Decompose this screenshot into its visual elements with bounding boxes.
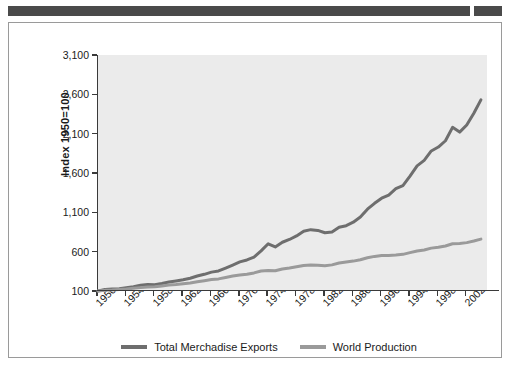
legend-label-exports: Total Merchadise Exports (154, 341, 278, 353)
legend-swatch-production (300, 345, 326, 349)
legend-item-total-merchadise-exports: Total Merchadise Exports (121, 341, 278, 353)
chart-legend: Total Merchadise Exports World Productio… (119, 341, 419, 353)
x-axis-line (97, 290, 499, 292)
decorative-top-bar (8, 6, 502, 16)
y-tick-label: 2,100 (45, 128, 89, 140)
legend-swatch-exports (121, 345, 147, 349)
plot-area (97, 55, 487, 291)
series-line-1 (98, 100, 481, 291)
y-tick-label: 100 (45, 285, 89, 297)
decorative-top-bar-gap (470, 6, 474, 16)
chart-figure: Index 1950=100 1006001,1001,6002,1002,60… (0, 0, 510, 365)
y-tick-label: 1,600 (45, 167, 89, 179)
y-tick-label: 1,100 (45, 206, 89, 218)
y-tick-label: 3,100 (45, 49, 89, 61)
legend-label-production: World Production (333, 341, 417, 353)
y-tick-label: 2,600 (45, 88, 89, 100)
y-tick-label: 600 (45, 246, 89, 258)
series-lines (98, 55, 488, 291)
chart-panel: Index 1950=100 1006001,1001,6002,1002,60… (8, 22, 502, 358)
legend-item-world-production: World Production (300, 341, 417, 353)
